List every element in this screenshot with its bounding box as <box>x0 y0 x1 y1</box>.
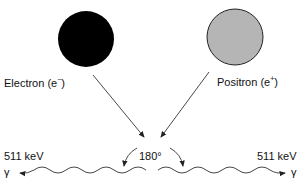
angle-arrow-right <box>170 148 183 166</box>
electron-path-arrow <box>93 75 144 137</box>
angle-label: 180° <box>139 151 162 162</box>
left-photon-energy: 511 keV <box>4 151 44 162</box>
angle-arrow-left <box>124 148 137 166</box>
positron-path-arrow <box>161 72 209 137</box>
right-photon-energy: 511 keV <box>257 151 297 162</box>
gamma-wave-left <box>20 167 146 173</box>
electron-particle <box>58 11 114 67</box>
positron-particle <box>207 9 263 65</box>
right-photon-symbol: γ <box>291 167 297 178</box>
gamma-wave-right <box>158 167 285 173</box>
positron-label: Positron (e+) <box>217 75 278 88</box>
left-photon-symbol: γ <box>4 167 10 178</box>
electron-label: Electron (e−) <box>4 76 65 89</box>
